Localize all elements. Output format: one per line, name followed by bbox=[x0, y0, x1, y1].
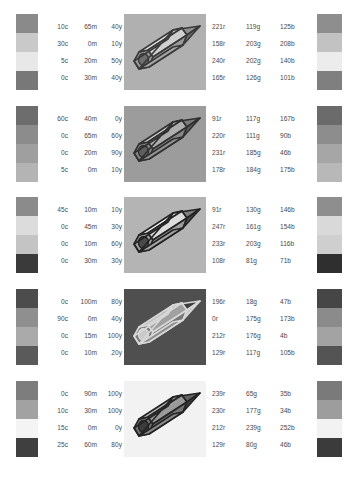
rgb-line: 220r111g90b bbox=[212, 127, 310, 144]
cmyk-m-value: 20m bbox=[68, 144, 97, 161]
cmyk-m-value: 60m bbox=[68, 436, 97, 453]
rgb-swatch bbox=[317, 438, 342, 457]
rgb-swatch bbox=[317, 235, 342, 254]
rgb-line: 233r203g116b bbox=[212, 235, 310, 252]
pencil-illustration bbox=[124, 381, 206, 457]
rgb-line: 240r202g140b bbox=[212, 52, 310, 69]
color-row: 60c40m0y20k0c65m60y10k0c20m90y10k5c0m10y… bbox=[0, 106, 355, 182]
rgb-r-value: 220r bbox=[212, 127, 246, 144]
rgb-r-value: 129r bbox=[212, 344, 246, 361]
color-row: 10c65m40y0k30c0m10y10k5c20m50y0k0c30m40y… bbox=[0, 14, 355, 90]
rgb-g-value: 117g bbox=[246, 110, 280, 127]
cmyk-m-value: 0m bbox=[68, 35, 97, 52]
rgb-r-value: 91r bbox=[212, 201, 246, 218]
rgb-line: 239r65g35b bbox=[212, 385, 310, 402]
cmyk-m-value: 90m bbox=[68, 385, 97, 402]
rgb-swatch bbox=[317, 346, 342, 365]
cmyk-c-value: 45c bbox=[40, 201, 68, 218]
rgb-b-value: 4b bbox=[280, 327, 310, 344]
cmyk-y-value: 50y bbox=[97, 52, 122, 69]
cmyk-c-value: 60c bbox=[40, 110, 68, 127]
cmyk-m-value: 0m bbox=[68, 310, 97, 327]
rgb-line: 178r184g175b bbox=[212, 161, 310, 178]
rgb-r-value: 212r bbox=[212, 327, 246, 344]
rgb-b-value: 175b bbox=[280, 161, 310, 178]
cmyk-swatch bbox=[16, 327, 38, 346]
cmyk-m-value: 65m bbox=[68, 18, 97, 35]
rgb-swatch bbox=[317, 381, 342, 400]
rgb-b-value: 167b bbox=[280, 110, 310, 127]
cmyk-y-value: 40y bbox=[97, 69, 122, 86]
rgb-swatch bbox=[317, 106, 342, 125]
rgb-line: 91r130g146b bbox=[212, 201, 310, 218]
rgb-swatch bbox=[317, 254, 342, 273]
rgb-swatch bbox=[317, 52, 342, 71]
cmyk-m-value: 15m bbox=[68, 327, 97, 344]
cmyk-y-value: 10y bbox=[97, 35, 122, 52]
rgb-r-value: 239r bbox=[212, 385, 246, 402]
rgb-g-value: 202g bbox=[246, 52, 280, 69]
rgb-r-value: 158r bbox=[212, 35, 246, 52]
left-swatch-column bbox=[16, 106, 38, 182]
pencil-illustration bbox=[124, 289, 206, 365]
rgb-swatch bbox=[317, 125, 342, 144]
rgb-values: 196r18g47b0r175g173b212r176g4b129r117g10… bbox=[212, 291, 310, 363]
rgb-line: 247r161g154b bbox=[212, 218, 310, 235]
rgb-line: 129r80g46b bbox=[212, 436, 310, 453]
rgb-line: 158r203g208b bbox=[212, 35, 310, 52]
cmyk-y-value: 40y bbox=[97, 18, 122, 35]
rgb-b-value: 252b bbox=[280, 419, 310, 436]
cmyk-swatch bbox=[16, 106, 38, 125]
cmyk-y-value: 60y bbox=[97, 235, 122, 252]
cmyk-y-value: 40y bbox=[97, 310, 122, 327]
cmyk-y-value: 0y bbox=[97, 419, 122, 436]
cmyk-c-value: 0c bbox=[40, 344, 68, 361]
cmyk-c-value: 90c bbox=[40, 310, 68, 327]
cmyk-m-value: 100m bbox=[68, 293, 97, 310]
rgb-g-value: 185g bbox=[246, 144, 280, 161]
cmyk-c-value: 0c bbox=[40, 69, 68, 86]
cmyk-y-value: 20y bbox=[97, 344, 122, 361]
left-swatch-column bbox=[16, 14, 38, 90]
rgb-r-value: 91r bbox=[212, 110, 246, 127]
cmyk-c-value: 25c bbox=[40, 436, 68, 453]
cmyk-swatch bbox=[16, 71, 38, 90]
rgb-b-value: 47b bbox=[280, 293, 310, 310]
rgb-line: 0r175g173b bbox=[212, 310, 310, 327]
rgb-swatch bbox=[317, 144, 342, 163]
rgb-swatch bbox=[317, 289, 342, 308]
cmyk-m-value: 10m bbox=[68, 201, 97, 218]
rgb-line: 221r119g125b bbox=[212, 18, 310, 35]
cmyk-m-value: 30m bbox=[68, 69, 97, 86]
cmyk-swatch bbox=[16, 52, 38, 71]
pencil-illustration bbox=[124, 197, 206, 273]
rgb-r-value: 221r bbox=[212, 18, 246, 35]
rgb-values: 239r65g35b230r177g34b212r239g252b129r80g… bbox=[212, 383, 310, 455]
rgb-g-value: 119g bbox=[246, 18, 280, 35]
cmyk-c-value: 0c bbox=[40, 235, 68, 252]
rgb-values: 91r130g146b247r161g154b233r203g116b108r8… bbox=[212, 199, 310, 271]
cmyk-swatch bbox=[16, 235, 38, 254]
cmyk-m-value: 40m bbox=[68, 110, 97, 127]
cmyk-c-value: 15c bbox=[40, 419, 68, 436]
rgb-g-value: 65g bbox=[246, 385, 280, 402]
cmyk-c-value: 0c bbox=[40, 218, 68, 235]
cmyk-swatch bbox=[16, 381, 38, 400]
pencil-illustration bbox=[124, 14, 206, 90]
rgb-swatch bbox=[317, 327, 342, 346]
cmyk-swatch bbox=[16, 144, 38, 163]
rgb-b-value: 105b bbox=[280, 344, 310, 361]
cmyk-y-value: 30y bbox=[97, 218, 122, 235]
rgb-line: 212r176g4b bbox=[212, 327, 310, 344]
cmyk-m-value: 45m bbox=[68, 218, 97, 235]
cmyk-swatch bbox=[16, 14, 38, 33]
rgb-b-value: 101b bbox=[280, 69, 310, 86]
cmyk-swatch bbox=[16, 346, 38, 365]
rgb-swatch bbox=[317, 71, 342, 90]
right-swatch-column bbox=[317, 197, 342, 273]
rgb-line: 108r81g71b bbox=[212, 252, 310, 269]
rgb-b-value: 125b bbox=[280, 18, 310, 35]
rgb-line: 91r117g167b bbox=[212, 110, 310, 127]
rgb-r-value: 240r bbox=[212, 52, 246, 69]
rgb-swatch bbox=[317, 419, 342, 438]
